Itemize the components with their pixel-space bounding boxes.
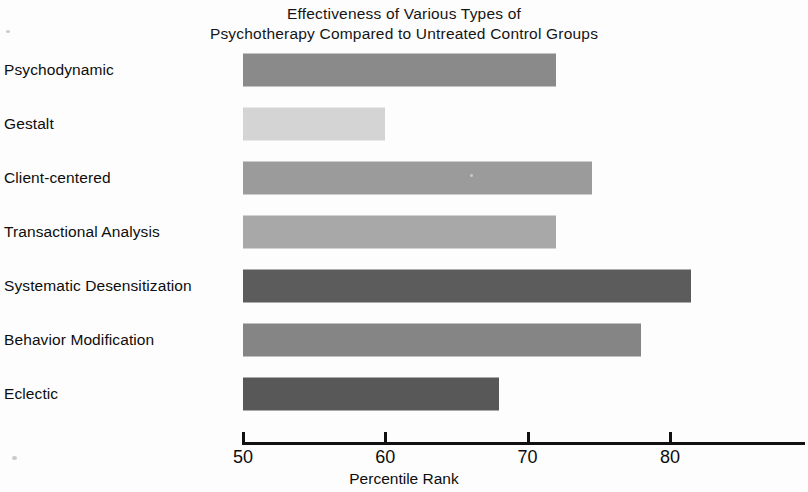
bar-chart-figure: Effectiveness of Various Types of Psycho… (0, 0, 808, 492)
bar-row: Behavior Modification (0, 313, 808, 367)
bar-row: Gestalt (0, 97, 808, 151)
x-axis-tick-label: 50 (233, 447, 253, 468)
bar (243, 324, 641, 357)
bar-category-label: Client-centered (4, 169, 111, 187)
x-axis-tick-label: 80 (660, 447, 680, 468)
scan-speck (470, 174, 473, 177)
bar (243, 216, 556, 249)
bar (243, 108, 385, 141)
bar-category-label: Behavior Modification (4, 331, 154, 349)
bar (243, 54, 556, 87)
x-axis-line (243, 442, 805, 445)
x-axis-tick (384, 432, 387, 443)
scan-speck (6, 30, 10, 33)
bar-category-label: Gestalt (4, 115, 54, 133)
plot-area: PsychodynamicGestaltClient-centeredTrans… (0, 0, 808, 492)
x-axis-tick (527, 432, 530, 443)
bar-row: Transactional Analysis (0, 205, 808, 259)
bar (243, 270, 691, 303)
x-axis-title: Percentile Rank (0, 470, 808, 488)
x-axis-tick-label: 60 (375, 447, 395, 468)
bar-category-label: Psychodynamic (4, 61, 114, 79)
x-axis-tick-label: 70 (518, 447, 538, 468)
bar-category-label: Eclectic (4, 385, 58, 403)
bar-row: Eclectic (0, 367, 808, 421)
bar (243, 378, 499, 411)
x-axis-tick (669, 432, 672, 443)
x-axis-tick (242, 432, 245, 445)
bar-row: Client-centered (0, 151, 808, 205)
scan-speck (12, 456, 17, 460)
bar-category-label: Transactional Analysis (4, 223, 160, 241)
bar-row: Systematic Desensitization (0, 259, 808, 313)
bar-row: Psychodynamic (0, 43, 808, 97)
bar (243, 162, 592, 195)
bar-category-label: Systematic Desensitization (4, 277, 192, 295)
